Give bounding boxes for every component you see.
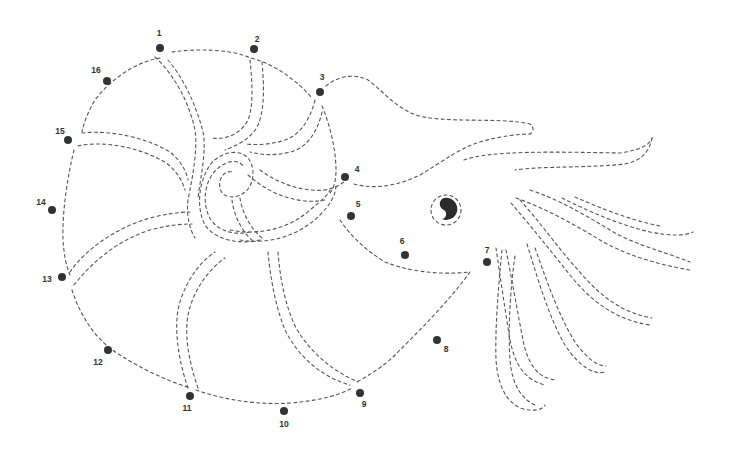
dot-3 [316, 88, 324, 96]
dot-9 [356, 389, 364, 397]
dot-label-12: 12 [93, 358, 102, 367]
dot-label-9: 9 [362, 400, 367, 409]
dot-4 [341, 173, 349, 181]
dot-16 [103, 77, 111, 85]
dot-11 [186, 392, 194, 400]
dot-label-15: 15 [55, 127, 64, 136]
dot-8 [433, 336, 441, 344]
dot-label-2: 2 [255, 35, 260, 44]
nautilus-drawing [0, 0, 739, 454]
dot-label-3: 3 [320, 73, 325, 82]
dot-5 [347, 212, 355, 220]
dot-2 [250, 45, 258, 53]
dot-label-4: 4 [355, 165, 360, 174]
dot-label-6: 6 [400, 237, 405, 246]
dot-label-1: 1 [157, 29, 162, 38]
tentacles [496, 190, 693, 410]
dot-12 [104, 346, 112, 354]
dot-label-5: 5 [356, 200, 361, 209]
dot-10 [280, 407, 288, 415]
dot-label-8: 8 [444, 345, 449, 354]
dot-label-7: 7 [485, 246, 490, 255]
dot-label-14: 14 [36, 198, 45, 207]
dot-13 [58, 273, 66, 281]
eye-pupil [440, 198, 458, 220]
eye [431, 195, 461, 225]
dot-label-16: 16 [91, 66, 100, 75]
dot-6 [401, 251, 409, 259]
dot-1 [156, 44, 164, 52]
dot-label-11: 11 [183, 404, 192, 413]
dot-14 [48, 206, 56, 214]
hood-and-body-outline [326, 76, 652, 383]
dot-15 [64, 136, 72, 144]
dot-label-10: 10 [279, 420, 288, 429]
dot-7 [483, 258, 491, 266]
dot-label-13: 13 [42, 275, 51, 284]
